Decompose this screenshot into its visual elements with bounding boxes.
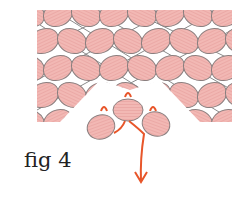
bead <box>179 105 216 139</box>
bead <box>11 51 48 85</box>
bead <box>39 51 76 85</box>
bead <box>193 78 230 112</box>
bead <box>207 51 244 85</box>
bead <box>25 78 62 112</box>
bead <box>193 24 230 58</box>
bead <box>151 0 188 31</box>
bead <box>165 24 202 58</box>
bead <box>39 0 76 31</box>
bead <box>95 0 132 31</box>
bead <box>165 78 202 112</box>
bead <box>39 105 76 139</box>
bead <box>179 51 216 85</box>
bottom-beads <box>84 99 174 143</box>
bead <box>11 105 48 139</box>
bead <box>207 105 244 139</box>
bead <box>25 24 62 58</box>
bead <box>207 0 244 31</box>
bead <box>67 51 104 85</box>
figure-caption: fig 4 <box>24 148 72 172</box>
